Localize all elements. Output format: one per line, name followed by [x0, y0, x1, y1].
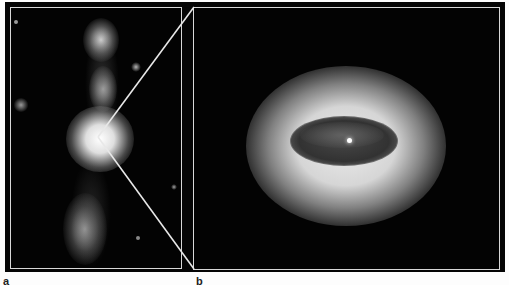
zoom-connector-lines: [0, 0, 509, 285]
panel-a-label: a: [3, 276, 9, 285]
panel-b-label: b: [196, 276, 203, 285]
